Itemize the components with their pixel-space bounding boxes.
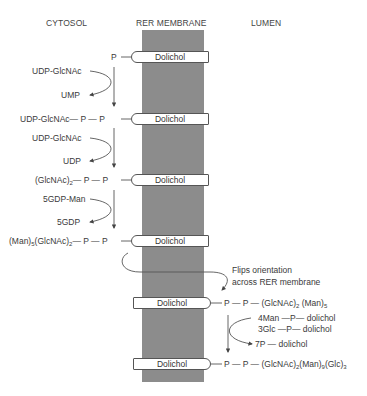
chain-pp-glcnac2-man5: P — P — (GlcNAc)2 (Man)5 [224, 299, 327, 309]
donor-gdp-man: 5GDP-Man [43, 195, 86, 204]
chain-pp-glcnac2-man9-glc3: P — P — (GlcNAc)2(Man)9(Glc)3 [224, 360, 347, 370]
chain-glcnac2-pp: (GlcNAc)2— P — P [35, 176, 108, 186]
product-p-dolichol: 7P — dolichol [255, 340, 307, 349]
chain-man5-glcnac2-pp: (Man)5(GlcNAc)2— P — P [9, 237, 108, 247]
product-udp: UDP [63, 157, 81, 166]
chain-p: P [111, 53, 117, 62]
chain-udp-glcnac-pp: UDP-GlcNAc— P — P [20, 115, 105, 124]
donor-man-dolichol: 4Man —P— dolichol [258, 314, 335, 323]
donor-udp-glcnac-2: UDP-GlcNAc [32, 134, 82, 143]
donor-glc-dolichol: 3Glc —P— dolichol [258, 325, 332, 334]
donor-udp-glcnac-1: UDP-GlcNAc [32, 67, 82, 76]
flip-note-line2: across RER membrane [232, 278, 320, 287]
product-ump: UMP [61, 91, 80, 100]
flip-note-line1: Flips orientation [232, 266, 292, 275]
product-gdp: 5GDP [57, 218, 80, 227]
